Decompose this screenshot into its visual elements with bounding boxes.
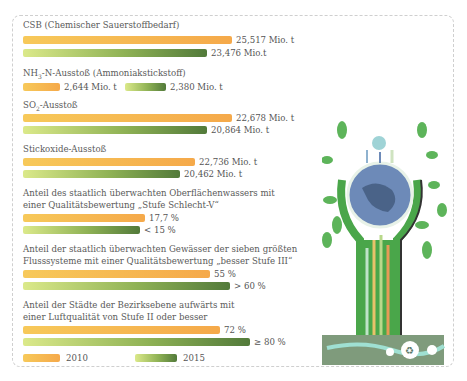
bar-csb-2010	[23, 36, 232, 44]
bar-cities-2010	[23, 326, 220, 334]
legend-swatch-2015	[135, 354, 177, 362]
value-cities-2010: 72 %	[224, 325, 246, 335]
label-nh3-pre: NH	[23, 68, 38, 78]
label-so2-post: -Ausstoß	[40, 100, 78, 110]
value-so2-2015: 20,864 Mio. t	[211, 125, 269, 135]
label-cities-1: Anteil der Städte der Bezirksebene aufwä…	[23, 300, 234, 311]
label-surface-water-1: Anteil des staatlich überwachten Oberflä…	[23, 188, 275, 199]
label-rivers-1: Anteil der staatlich überwachten Gewässe…	[23, 244, 297, 255]
label-nh3-post: -N-Ausstoß (Ammoniakstickstoff)	[42, 68, 186, 78]
bar-so2-2010	[23, 114, 232, 122]
legend-label-2015: 2015	[183, 353, 205, 363]
bar-rivers-2015	[23, 282, 230, 290]
bar-nox-2015	[23, 170, 180, 178]
label-nh3: NH3-N-Ausstoß (Ammoniakstickstoff)	[23, 68, 186, 82]
bar-surface-water-2015	[23, 226, 140, 234]
label-nox: Stickoxide-Ausstoß	[23, 144, 106, 155]
value-nox-2015: 20,462 Mio. t	[184, 169, 242, 179]
value-nox-2010: 22,736 Mio. t	[199, 157, 257, 167]
trash-icon	[427, 345, 437, 355]
label-so2: SO2-Ausstoß	[23, 100, 78, 114]
label-cities-2: einer Luftqualität von Stufe II oder bes…	[23, 312, 207, 323]
value-csb-2015: 23,476 Mio.t	[211, 48, 267, 58]
tree-small-icon	[386, 348, 394, 356]
label-so2-pre: SO	[23, 100, 36, 110]
svg-text:♻: ♻	[405, 345, 414, 356]
value-surface-water-2015: < 15 %	[144, 225, 176, 235]
value-rivers-2010: 55 %	[214, 269, 236, 279]
legend-label-2010: 2010	[66, 353, 88, 363]
value-rivers-2015: > 60 %	[234, 281, 266, 291]
label-csb: CSB (Chemischer Sauerstoffbedarf)	[23, 20, 179, 31]
value-so2-2010: 22,678 Mio. t	[236, 113, 294, 123]
bar-cities-2015	[23, 338, 250, 346]
tree-globe-illustration: ♻	[322, 100, 462, 370]
ground-band	[322, 335, 444, 365]
value-nh3-2015: 2,380 Mio. t	[170, 82, 223, 92]
legend-swatch-2010	[23, 354, 60, 362]
label-surface-water-2: einer Qualitätsbewertung „Stufe Schlecht…	[23, 200, 219, 211]
bar-surface-water-2010	[23, 214, 145, 222]
bar-nh3-2010	[23, 83, 60, 91]
bar-csb-2015	[23, 49, 207, 57]
bar-so2-2015	[23, 126, 207, 134]
bar-nh3-2015	[125, 83, 166, 91]
label-rivers-2: Flusssysteme mit einer Qualitätsbewertun…	[23, 256, 292, 267]
bar-rivers-2010	[23, 270, 210, 278]
value-csb-2010: 25,517 Mio. t	[236, 35, 294, 45]
value-surface-water-2010: 17,7 %	[149, 213, 179, 223]
value-nh3-2010: 2,644 Mio. t	[64, 82, 117, 92]
value-cities-2015: ≥ 80 %	[254, 337, 286, 347]
bar-nox-2010	[23, 158, 195, 166]
